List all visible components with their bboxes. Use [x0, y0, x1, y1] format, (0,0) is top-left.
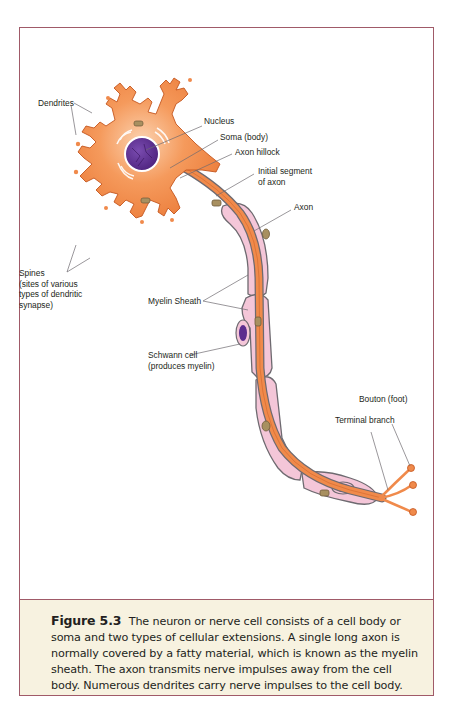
neuron-illustration	[20, 28, 433, 599]
label-bouton: Bouton (foot)	[359, 394, 407, 405]
label-soma: Soma (body)	[220, 132, 268, 143]
label-schwann-cell: Schwann cell (produces myelin)	[148, 350, 215, 371]
label-myelin-sheath: Myelin Sheath	[148, 296, 201, 307]
nucleus	[125, 137, 159, 171]
myelin-sheath	[222, 203, 378, 504]
label-spines: Spines (sites of various types of dendri…	[19, 268, 82, 310]
label-axon: Axon	[294, 202, 313, 213]
label-terminal-branch: Terminal branch	[335, 415, 395, 426]
figure-caption: Figure 5.3 The neuron or nerve cell cons…	[20, 599, 433, 695]
label-dendrites: Dendrites	[38, 98, 74, 109]
neuron-diagram: Dendrites Nucleus Soma (body) Axon hillo…	[20, 28, 433, 599]
label-axon-hillock: Axon hillock	[235, 147, 280, 158]
terminal-branches	[380, 469, 412, 512]
label-initial-segment: Initial segment of axon	[258, 166, 312, 187]
label-nucleus: Nucleus	[204, 116, 234, 127]
figure-frame: Dendrites Nucleus Soma (body) Axon hillo…	[19, 27, 434, 696]
bouton-icon	[408, 465, 417, 516]
figure-number: Figure 5.3	[51, 613, 121, 628]
